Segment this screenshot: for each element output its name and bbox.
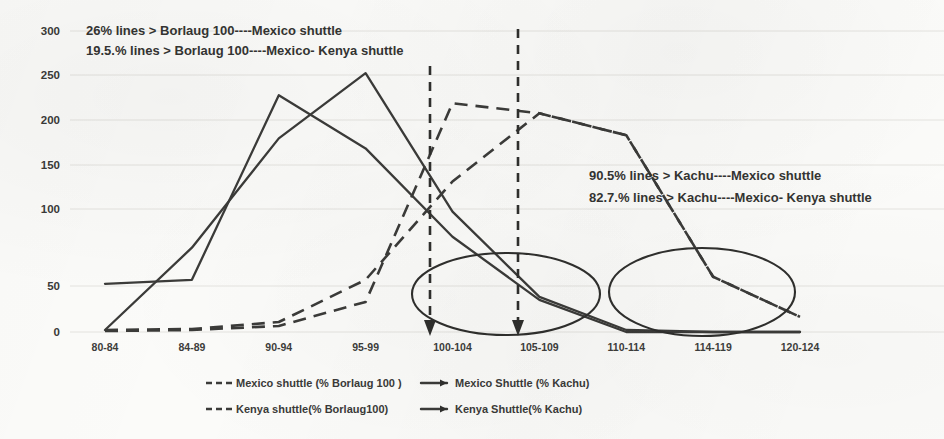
x-tick-label: 114-119 [694, 341, 732, 353]
x-axis-ticks: 80-8484-8990-9495-99100-104105-109110-11… [92, 341, 820, 353]
legend-item-kenya-borlaug[interactable]: Kenya shuttle(% Borlaug100) [206, 403, 389, 415]
series-line-2 [105, 113, 800, 330]
legend-item-kenya-kachu[interactable]: Kenya Shuttle(% Kachu) [421, 403, 582, 415]
legend-label: Kenya shuttle(% Borlaug100) [236, 403, 389, 415]
legend-item-mexico-kachu[interactable]: Mexico Shuttle (% Kachu) [421, 377, 590, 389]
line-chart-plot: 300 250 200 150 100 50 0 80- [0, 0, 944, 439]
annotation-text: 82.7.% lines > Kachu----Mexico- Kenya sh… [589, 190, 872, 205]
x-tick-label: 90-94 [265, 341, 292, 353]
y-tick-label: 100 [41, 203, 60, 215]
annotation-text: 90.5% lines > Kachu----Mexico shuttle [589, 168, 821, 183]
x-tick-label: 110-114 [608, 341, 646, 353]
series-line-0 [105, 103, 800, 331]
y-tick-label: 300 [41, 25, 60, 37]
series-line-1 [105, 95, 800, 332]
drop-arrow-100-104 [424, 66, 436, 336]
callout-ellipse-right [609, 248, 795, 336]
chart-legend: Mexico shuttle (% Borlaug 100 ) Mexico S… [206, 377, 590, 415]
x-tick-label: 100-104 [433, 341, 472, 353]
x-tick-label: 80-84 [92, 341, 119, 353]
legend-marker-arrow-icon [440, 406, 447, 413]
annotation-top: 26% lines > Borlaug 100----Mexico shuttl… [86, 23, 404, 58]
annotation-text: 19.5.% lines > Borlaug 100----Mexico- Ke… [86, 43, 404, 58]
y-tick-label: 250 [41, 69, 60, 81]
y-axis-ticks: 300 250 200 150 100 50 0 [41, 25, 60, 338]
annotation-right: 90.5% lines > Kachu----Mexico shuttle 82… [589, 168, 872, 205]
annotation-text: 26% lines > Borlaug 100----Mexico shuttl… [86, 23, 342, 38]
legend-label: Mexico Shuttle (% Kachu) [455, 377, 590, 389]
x-tick-label: 120-124 [781, 341, 820, 353]
legend-label: Kenya Shuttle(% Kachu) [455, 403, 582, 415]
x-tick-label: 84-89 [178, 341, 205, 353]
x-tick-label: 105-109 [520, 341, 559, 353]
y-tick-label: 0 [54, 326, 60, 338]
chart-container: 300 250 200 150 100 50 0 80- [0, 0, 944, 439]
legend-item-mexico-borlaug[interactable]: Mexico shuttle (% Borlaug 100 ) [206, 377, 402, 389]
legend-label: Mexico shuttle (% Borlaug 100 ) [236, 377, 402, 389]
y-tick-label: 200 [41, 114, 60, 126]
y-tick-label: 50 [47, 280, 60, 292]
x-tick-label: 95-99 [352, 341, 379, 353]
legend-marker-arrow-icon [440, 380, 447, 387]
y-tick-label: 150 [41, 159, 60, 171]
